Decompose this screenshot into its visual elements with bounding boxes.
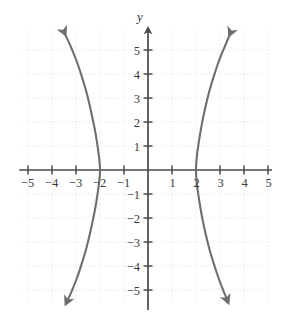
y-tick-label: −2 (127, 212, 140, 226)
x-tick-label: −5 (21, 176, 34, 190)
y-tick-label: 4 (134, 68, 141, 82)
coordinate-plane: −5−4−3−2−112345−5−4−3−2−112345 y (0, 0, 290, 328)
plot-background (0, 0, 290, 328)
x-tick-label: 2 (193, 176, 199, 190)
y-tick-label: 3 (134, 92, 140, 106)
x-tick-label: 3 (217, 176, 223, 190)
y-tick-label: 5 (134, 44, 140, 58)
y-tick-label: −1 (127, 188, 140, 202)
y-tick-label: −5 (127, 284, 140, 298)
y-tick-label: 1 (134, 140, 140, 154)
x-tick-label: 5 (265, 176, 271, 190)
x-tick-label: −4 (45, 176, 59, 190)
x-tick-label: 1 (169, 176, 175, 190)
x-tick-label: −2 (93, 176, 106, 190)
x-tick-label: 4 (241, 176, 248, 190)
y-axis-label: y (135, 9, 143, 24)
x-tick-label: −3 (69, 176, 82, 190)
y-tick-label: −3 (127, 236, 140, 250)
hyperbola-figure: −5−4−3−2−112345−5−4−3−2−112345 y (0, 0, 290, 328)
y-tick-label: −4 (127, 260, 141, 274)
y-tick-label: 2 (134, 116, 140, 130)
